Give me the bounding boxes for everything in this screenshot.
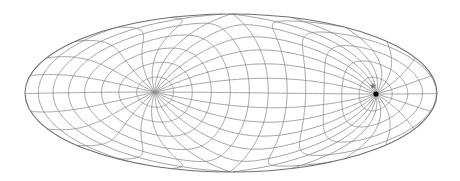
graticule-line bbox=[155, 93, 376, 150]
projection-map bbox=[0, 0, 460, 181]
pole-marker-icon bbox=[373, 91, 378, 96]
graticule-line bbox=[156, 92, 376, 108]
graticule-line bbox=[156, 92, 376, 94]
graticule-line bbox=[155, 64, 375, 94]
